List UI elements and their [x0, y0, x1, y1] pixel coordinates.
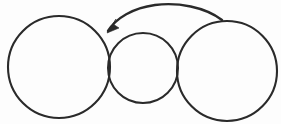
figure-canvas: Three overlapping circles with a curved …: [0, 0, 281, 124]
diagram-svg: [0, 0, 281, 124]
right-circle: [177, 21, 277, 121]
middle-circle: [108, 33, 178, 103]
left-circle: [8, 16, 110, 118]
